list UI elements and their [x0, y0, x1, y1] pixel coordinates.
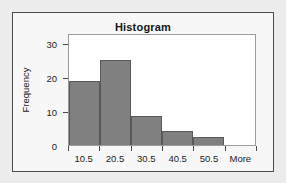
- x-tick-label: More: [225, 153, 256, 164]
- x-tick-mark: [225, 146, 226, 151]
- bar-slot: [193, 35, 224, 145]
- histogram-bar: [100, 60, 131, 145]
- plot-area: [68, 34, 256, 146]
- bar-slot: [162, 35, 193, 145]
- x-tick-mark: [68, 146, 69, 151]
- histogram-bar: [162, 131, 193, 145]
- x-tick-mark: [193, 146, 194, 151]
- y-tick-label: 30: [35, 39, 57, 50]
- chart-panel: Histogram Frequency 0102030 10.520.530.5…: [12, 12, 274, 172]
- x-tick-mark: [131, 146, 132, 151]
- x-axis: 10.520.530.540.550.5More: [68, 146, 256, 172]
- bar-slot: [224, 35, 255, 145]
- y-axis-title: Frequency: [20, 54, 31, 126]
- x-axis-labels: 10.520.530.540.550.5More: [68, 153, 256, 164]
- x-tick-label: 50.5: [193, 153, 224, 164]
- chart-title: Histogram: [13, 21, 273, 33]
- x-tick-label: 10.5: [68, 153, 99, 164]
- y-tick-label: 20: [35, 73, 57, 84]
- y-tick-label: 0: [35, 141, 57, 152]
- x-tick-mark: [256, 146, 257, 151]
- y-tick-label: 10: [35, 107, 57, 118]
- x-tick-label: 40.5: [162, 153, 193, 164]
- x-tick-mark: [99, 146, 100, 151]
- bar-slot: [69, 35, 100, 145]
- histogram-bar: [193, 137, 224, 145]
- histogram-bar: [69, 81, 100, 145]
- x-tick-mark: [162, 146, 163, 151]
- y-axis: Frequency 0102030: [13, 34, 68, 146]
- bar-slot: [131, 35, 162, 145]
- x-tick-label: 30.5: [131, 153, 162, 164]
- bar-slot: [100, 35, 131, 145]
- x-axis-ticks: [68, 146, 256, 151]
- x-tick-label: 20.5: [99, 153, 130, 164]
- histogram-bar: [131, 116, 162, 145]
- bars-layer: [69, 35, 255, 145]
